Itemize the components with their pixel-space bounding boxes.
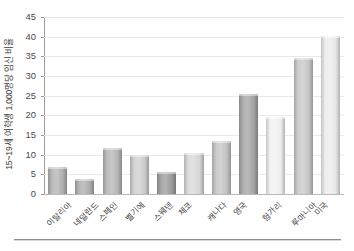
bar bbox=[75, 179, 94, 194]
bar bbox=[157, 172, 176, 194]
x-axis-label: 벨기에 bbox=[122, 198, 147, 223]
gridline bbox=[44, 17, 344, 18]
bar bbox=[266, 117, 285, 194]
bar bbox=[239, 94, 258, 194]
bar bbox=[103, 148, 122, 194]
bar bbox=[130, 155, 149, 194]
y-tick-label: 40 bbox=[14, 32, 36, 41]
gridline bbox=[44, 194, 344, 195]
bar bbox=[184, 153, 203, 194]
y-tick-label: 30 bbox=[14, 71, 36, 80]
bar bbox=[212, 141, 231, 194]
y-tick-label: 10 bbox=[14, 150, 36, 159]
y-tick-label: 15 bbox=[14, 130, 36, 139]
bar bbox=[48, 167, 67, 194]
plot-area bbox=[44, 17, 344, 194]
chart-figure: 15~19세 여학생 1,000명당 임신 비율 051015202530354… bbox=[0, 0, 354, 251]
x-axis-label: 헝가리 bbox=[259, 198, 284, 223]
x-axis-label: 캐나다 bbox=[204, 198, 229, 223]
x-axis-label: 영국 bbox=[229, 198, 249, 218]
footer-rule-shadow bbox=[14, 240, 341, 241]
y-axis-title-text: 15~19세 여학생 1,000명당 임신 비율 bbox=[2, 38, 14, 170]
y-tick-label: 35 bbox=[14, 51, 36, 60]
y-tick-label: 5 bbox=[14, 169, 36, 178]
y-tick-label: 0 bbox=[14, 189, 36, 198]
y-tick-label: 20 bbox=[14, 110, 36, 119]
x-axis-label: 스페인 bbox=[95, 198, 120, 223]
x-axis-label: 스웨덴 bbox=[150, 198, 175, 223]
x-axis-label: 체코 bbox=[175, 198, 195, 218]
y-tick-label: 25 bbox=[14, 91, 36, 100]
gridline bbox=[44, 37, 344, 38]
x-axis-label: 이탈리아 bbox=[43, 198, 74, 229]
bar bbox=[321, 36, 340, 195]
y-tick-label: 45 bbox=[14, 12, 36, 21]
bar bbox=[294, 58, 313, 194]
gridline bbox=[44, 56, 344, 57]
y-axis-title: 15~19세 여학생 1,000명당 임신 비율 bbox=[0, 14, 16, 194]
